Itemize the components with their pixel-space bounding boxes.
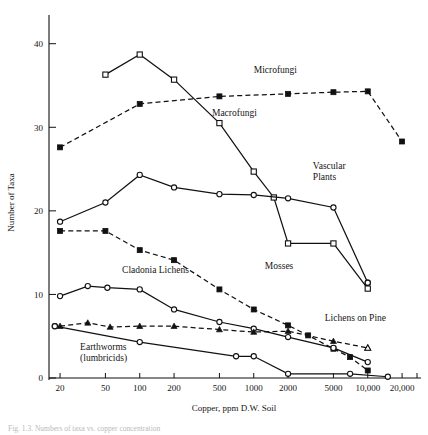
x-tick-label: 20,000 <box>390 383 415 393</box>
data-point <box>57 219 62 224</box>
series-label: Macrofungi <box>212 108 257 118</box>
data-point <box>331 241 336 246</box>
data-point <box>85 320 91 325</box>
series-label: Microfungi <box>254 65 298 75</box>
data-point <box>385 374 390 379</box>
data-point <box>286 323 291 328</box>
x-tick-label: 200 <box>167 383 181 393</box>
data-point <box>217 121 222 126</box>
series-vascular-plants: VascularPlants <box>57 161 370 285</box>
data-point <box>365 345 371 350</box>
data-point <box>365 89 370 94</box>
data-point <box>233 354 238 359</box>
y-tick-label: 10 <box>34 290 44 300</box>
y-tick-label: 30 <box>34 123 44 133</box>
x-tick-label: 10,000 <box>355 383 380 393</box>
x-tick-label: 100 <box>133 383 147 393</box>
data-point <box>58 145 63 150</box>
data-point <box>217 94 222 99</box>
extra-marker <box>52 324 57 329</box>
data-point <box>85 283 90 288</box>
data-point <box>137 172 142 177</box>
data-point <box>251 307 256 312</box>
series-label: Lichens on Pine <box>325 313 386 323</box>
x-tick-label: 1000 <box>245 383 264 393</box>
data-point <box>105 285 110 290</box>
data-point <box>57 294 62 299</box>
data-point <box>171 185 176 190</box>
x-tick-label: 20 <box>56 383 66 393</box>
x-tick-label: 50 <box>101 383 111 393</box>
data-point <box>365 360 370 365</box>
data-point <box>217 319 222 324</box>
series-label: Earthworms <box>80 342 127 352</box>
chart-svg: 205010020050010002000500010,00020,000010… <box>0 0 428 418</box>
data-point <box>103 200 108 205</box>
data-point <box>285 241 290 246</box>
x-tick-label: 2000 <box>279 383 298 393</box>
data-point <box>171 77 176 82</box>
data-point <box>331 205 336 210</box>
data-point <box>365 286 370 291</box>
y-tick-label: 40 <box>34 39 44 49</box>
extra-marker <box>365 280 370 285</box>
data-point <box>347 371 352 376</box>
figure-caption: Fig. 1.3. Numbers of taxa vs. copper con… <box>8 424 428 433</box>
series-label: Cladonia Lichens <box>122 265 189 275</box>
data-point <box>137 248 142 253</box>
y-axis-title: Number of Taxa <box>6 173 16 232</box>
data-point <box>103 228 108 233</box>
data-point <box>171 307 176 312</box>
data-point <box>217 192 222 197</box>
y-tick-label: 20 <box>34 206 44 216</box>
data-point <box>52 324 57 329</box>
series-label: Mosses <box>265 261 294 271</box>
data-point <box>217 287 222 292</box>
series-microfungi: Microfungi <box>58 65 405 150</box>
series-label: Vascular <box>313 161 347 171</box>
lichens-on-pine-terminal <box>365 345 371 350</box>
data-point <box>331 345 336 350</box>
data-point <box>365 368 370 373</box>
figure-container: 205010020050010002000500010,00020,000010… <box>0 0 428 435</box>
data-point <box>286 91 291 96</box>
data-point <box>285 371 290 376</box>
data-point <box>137 287 142 292</box>
data-point <box>58 228 63 233</box>
data-point <box>400 139 405 144</box>
data-point <box>251 192 256 197</box>
data-point <box>137 101 142 106</box>
data-point <box>365 280 370 285</box>
data-point <box>331 90 336 95</box>
x-tick-label: 5000 <box>324 383 343 393</box>
data-point <box>251 169 256 174</box>
series-label: Plants <box>313 172 337 182</box>
data-point <box>172 258 177 263</box>
data-point <box>285 196 290 201</box>
data-point <box>285 328 291 333</box>
data-point <box>137 52 142 57</box>
data-point <box>251 354 256 359</box>
x-axis-title: Copper, ppm D.W. Soil <box>192 403 277 413</box>
x-tick-label: 500 <box>213 383 227 393</box>
data-point <box>103 72 108 77</box>
y-tick-label: 0 <box>39 373 44 383</box>
series-label: (lumbricids) <box>80 353 127 364</box>
data-point <box>137 339 142 344</box>
data-point <box>285 334 290 339</box>
